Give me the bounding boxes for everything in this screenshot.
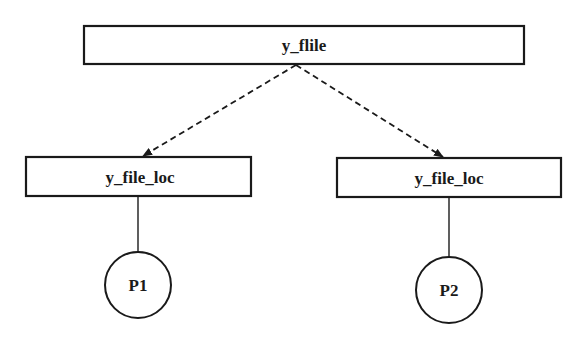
process-label-p2: P2 (440, 281, 459, 300)
dashed-edge-right (296, 65, 443, 157)
root-label: y_flile (282, 36, 327, 55)
root-node: y_flile (84, 26, 524, 64)
process-label-p1: P1 (129, 276, 148, 295)
child-node-right: y_file_loc (337, 158, 561, 197)
diagram-canvas: y_flile y_file_loc y_file_loc P1 P2 (0, 0, 585, 348)
dashed-edge-left (143, 65, 296, 156)
process-node-p1: P1 (105, 252, 171, 318)
process-node-p2: P2 (416, 257, 482, 323)
child-label-right: y_file_loc (415, 169, 484, 188)
child-label-left: y_file_loc (106, 168, 175, 187)
child-node-left: y_file_loc (26, 157, 251, 196)
